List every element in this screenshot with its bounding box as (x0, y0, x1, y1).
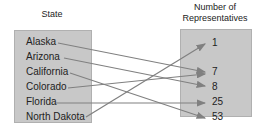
arrow-california-53 (70, 73, 205, 118)
arrow-north-dakota-1 (86, 44, 205, 117)
mapping-arrows (0, 0, 259, 139)
